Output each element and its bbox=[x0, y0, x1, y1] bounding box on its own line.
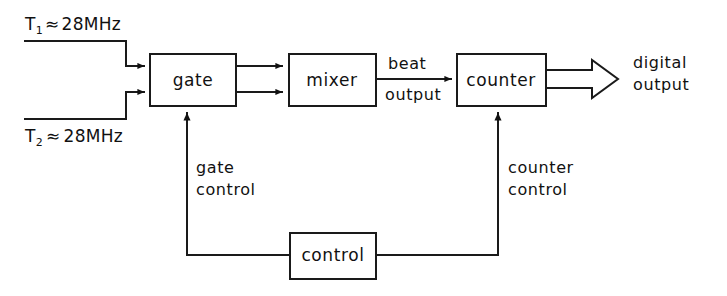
wire-t2-to-gate bbox=[25, 92, 144, 119]
block-diagram: gate mixer counter control T1≈28MHz T2≈2… bbox=[0, 0, 727, 296]
block-gate[interactable]: gate bbox=[150, 54, 236, 106]
wire-t1-to-gate bbox=[25, 41, 144, 66]
block-control[interactable]: control bbox=[290, 233, 376, 279]
wire-label-counter: counter bbox=[508, 158, 574, 177]
input-t1-subscript: 1 bbox=[36, 24, 43, 37]
block-gate-label: gate bbox=[173, 70, 214, 90]
input-t2-value: 28MHz bbox=[64, 126, 124, 146]
wire-label-digital: digital bbox=[633, 53, 687, 72]
digital-output-block-arrow bbox=[546, 60, 618, 98]
input-t2-subscript: 2 bbox=[36, 136, 43, 149]
block-control-label: control bbox=[301, 245, 364, 265]
input-t1-symbol: T bbox=[24, 14, 36, 34]
input-label-t1: T1≈28MHz bbox=[24, 14, 121, 37]
wire-label-digital-output: output bbox=[633, 75, 689, 94]
wire-label-beat: beat bbox=[388, 54, 426, 73]
block-diagram-canvas: gate mixer counter control T1≈28MHz T2≈2… bbox=[0, 0, 727, 296]
block-counter[interactable]: counter bbox=[457, 54, 546, 106]
block-mixer-label: mixer bbox=[306, 70, 357, 90]
wire-label-gate: gate bbox=[196, 158, 234, 177]
input-label-t2: T2≈28MHz bbox=[24, 126, 123, 149]
input-t2-symbol: T bbox=[24, 126, 36, 146]
input-t2-relation: ≈ bbox=[46, 126, 61, 146]
wire-label-gate-control: control bbox=[196, 180, 256, 199]
input-t1-relation: ≈ bbox=[45, 14, 60, 34]
block-counter-label: counter bbox=[466, 70, 536, 90]
wire-label-counter-control: control bbox=[508, 180, 568, 199]
wire-label-beat-output: output bbox=[385, 85, 441, 104]
input-t1-value: 28MHz bbox=[62, 14, 122, 34]
block-mixer[interactable]: mixer bbox=[289, 54, 376, 106]
